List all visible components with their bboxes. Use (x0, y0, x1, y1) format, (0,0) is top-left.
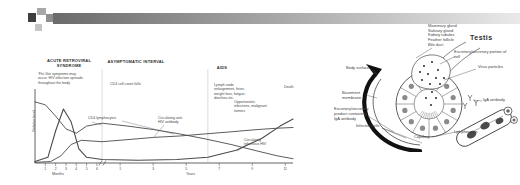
cell-nucleus (451, 95, 456, 100)
year-tick-label: 3 (152, 167, 154, 171)
aids-symptoms-note: Lymph node enlargement, fever, weight lo… (214, 83, 254, 101)
virus-particle-dot (431, 91, 433, 93)
gland-site-list: Mammary gland Salivary gland Kidney tubu… (428, 24, 468, 48)
diagram-title: Testis (470, 34, 493, 41)
cell-nucleus (444, 84, 449, 89)
asymptomatic-phase-note: CD4 cell count falls (110, 82, 160, 86)
hiv-course-chart: 1234561357911 ACUTE RETROVIRAL SYNDROME … (26, 55, 316, 183)
virus-shedding-diagram: Mammary gland Salivary gland Kidney tubu… (332, 0, 520, 152)
lymphocytes-label: Lymphocytes (454, 130, 480, 135)
phase-header-asymptomatic: ASYMPTOMATIC INTERVAL (106, 60, 166, 65)
year-tick-label: 9 (251, 167, 253, 171)
cell-nucleus (451, 108, 456, 113)
virus-particle-dot (425, 97, 427, 99)
virus-curve-label: Circulating infectious HIV (244, 138, 276, 147)
cell-nucleus (433, 126, 438, 131)
cell-nucleus (409, 84, 414, 89)
virus-particle-dot (435, 77, 437, 79)
iga-antibody-glyphs (463, 95, 478, 109)
phase-header-acute: ACUTE RETROVIRAL SYNDROME (38, 59, 100, 69)
month-tick-label: 6 (96, 167, 98, 171)
month-tick-label: 1 (44, 167, 46, 171)
virus-particle-dot (430, 104, 432, 106)
year-tick-label: 1 (119, 167, 121, 171)
year-tick-label: 5 (185, 167, 187, 171)
cell-nucleus (444, 119, 449, 124)
excretory-portion-label: Excretory/secretory portion of cell (454, 50, 512, 60)
months-axis-label: Months (52, 172, 64, 176)
cell-nucleus (409, 119, 414, 124)
month-tick-label: 2 (55, 167, 57, 171)
testis-diagram-canvas (332, 0, 520, 152)
year-tick-label: 11 (283, 167, 287, 171)
cd4-curve-label: CD4 lymphocytes (88, 116, 122, 120)
virus-particles-label: Virus particles (478, 65, 518, 70)
month-tick-label: 5 (86, 167, 88, 171)
virus-particle-dot (439, 83, 441, 85)
acute-phase-note: 'Flu'-like symptoms may occur. HIV infec… (38, 72, 84, 85)
y-axis-label: Relative level (32, 91, 36, 151)
header-square-mid1 (37, 8, 46, 15)
capillary-label: Capillary (414, 135, 434, 140)
virus-particle-dot (419, 71, 421, 73)
header-square-light (35, 24, 42, 31)
year-tick-label: 7 (218, 167, 220, 171)
excretory-portion-blob (412, 55, 451, 89)
scanned-page: 1234561357911 ACUTE RETROVIRAL SYNDROME … (0, 0, 520, 185)
header-square-dark (28, 13, 36, 22)
antibody-curve-label: Circulating anti-HIV antibody (158, 116, 188, 125)
body-surface-label: Body surface (346, 66, 372, 71)
death-annotation: Death (284, 85, 304, 89)
cell-nucleus (420, 126, 425, 131)
month-tick-label: 4 (75, 167, 77, 171)
excretory-product-label: Excretory/secretory product containing I… (334, 107, 368, 121)
infected-cells-label: Infected cells (356, 124, 382, 129)
basement-membrane-label: Basement membrane (342, 91, 366, 101)
acinus-lumen (414, 89, 444, 119)
virus-particle-dot (431, 61, 433, 63)
virus-particle-dot (421, 79, 423, 81)
virus-particle-dot (429, 83, 431, 85)
month-tick-label: 3 (65, 167, 67, 171)
phase-header-aids: AIDS (211, 66, 233, 71)
virus-particle-dot (427, 73, 429, 75)
aids-complications-note: Opportunistic infections, malignant tumo… (234, 100, 268, 113)
years-axis-label: Years (186, 172, 195, 176)
virus-particle-dot (435, 97, 437, 99)
virus-particle-dot (423, 65, 425, 67)
cell-nucleus (402, 95, 407, 100)
virus-particle-dot (437, 69, 439, 71)
cell-nucleus (402, 108, 407, 113)
iga-antibody-label: IgA antibody (483, 98, 519, 103)
virus-particle-dot (443, 77, 445, 79)
